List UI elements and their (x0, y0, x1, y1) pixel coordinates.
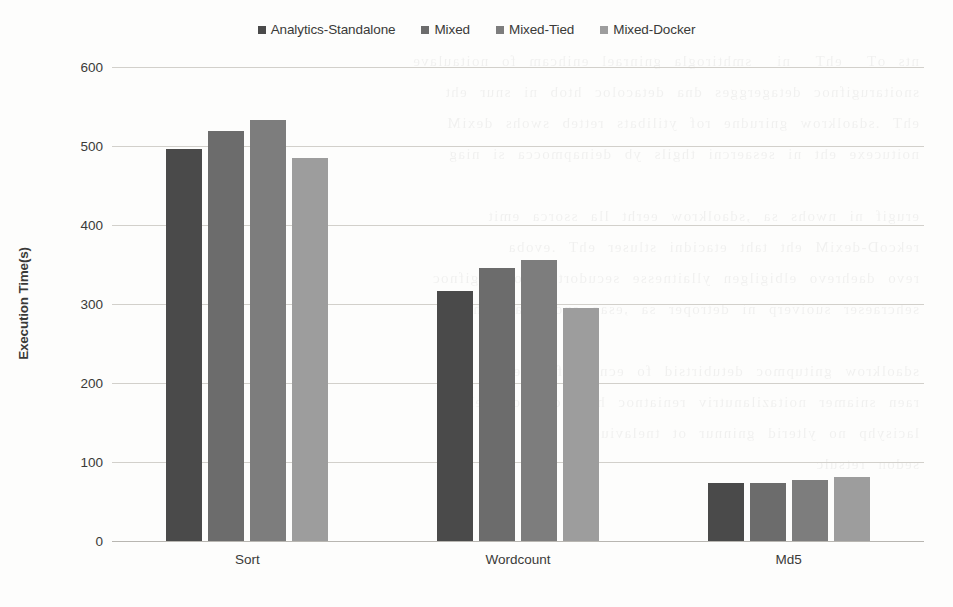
gridline-0: 0 (112, 541, 924, 542)
y-tick-label-0: 0 (95, 534, 103, 549)
legend-item-mixed-tied: Mixed-Tied (496, 22, 574, 37)
bar-group-sort: Sort (112, 67, 383, 541)
legend-label: Mixed-Tied (509, 22, 574, 37)
bar-sort-analytics-standalone (166, 149, 202, 541)
legend-item-mixed: Mixed (421, 22, 470, 37)
y-tick-label-400: 400 (80, 218, 103, 233)
plot-area: 600 500 400 300 200 100 0 (112, 67, 924, 541)
bar-wordcount-mixed (479, 268, 515, 541)
legend-swatch-icon (421, 26, 429, 34)
y-axis-title-text: Execution Time(s) (16, 247, 31, 360)
x-tick-label-sort: Sort (112, 552, 383, 567)
bar-md5-analytics-standalone (708, 483, 744, 541)
legend-swatch-icon (258, 26, 266, 34)
bars (383, 67, 654, 541)
bar-wordcount-mixed-tied (521, 260, 557, 541)
y-tick-label-200: 200 (80, 376, 103, 391)
y-tick-label-100: 100 (80, 455, 103, 470)
bar-wordcount-mixed-docker (563, 308, 599, 541)
legend-label: Mixed-Docker (613, 22, 695, 37)
bars (112, 67, 383, 541)
y-axis-title: Execution Time(s) (10, 0, 36, 607)
bar-group-md5: Md5 (653, 67, 924, 541)
legend-item-mixed-docker: Mixed-Docker (600, 22, 695, 37)
legend-swatch-icon (496, 26, 504, 34)
bar-sort-mixed-docker (292, 158, 328, 541)
x-tick-label-md5: Md5 (653, 552, 924, 567)
bar-wordcount-analytics-standalone (437, 291, 473, 541)
x-tick-label-wordcount: Wordcount (383, 552, 654, 567)
legend-item-analytics-standalone: Analytics-Standalone (258, 22, 396, 37)
bar-group-wordcount: Wordcount (383, 67, 654, 541)
bar-md5-mixed (750, 483, 786, 541)
legend-label: Analytics-Standalone (271, 22, 396, 37)
bars (653, 67, 924, 541)
bar-md5-mixed-tied (792, 480, 828, 541)
y-tick-label-300: 300 (80, 297, 103, 312)
y-tick-label-500: 500 (80, 139, 103, 154)
bar-chart: Analytics-Standalone Mixed Mixed-Tied Mi… (0, 0, 953, 607)
bar-sort-mixed (208, 131, 244, 541)
y-tick-label-600: 600 (80, 60, 103, 75)
bar-md5-mixed-docker (834, 477, 870, 541)
legend-swatch-icon (600, 26, 608, 34)
chart-legend: Analytics-Standalone Mixed Mixed-Tied Mi… (0, 22, 953, 37)
legend-label: Mixed (434, 22, 470, 37)
bar-groups: Sort Wordcount Md5 (112, 67, 924, 541)
bar-sort-mixed-tied (250, 120, 286, 541)
